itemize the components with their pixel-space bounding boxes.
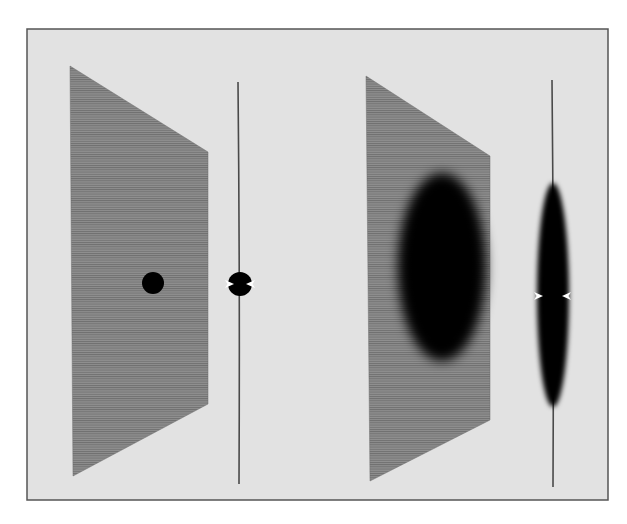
figure-canvas (0, 0, 627, 524)
dark-spot-large (398, 173, 486, 361)
edge-spot-large (537, 183, 569, 407)
dark-spot-small (142, 272, 164, 294)
